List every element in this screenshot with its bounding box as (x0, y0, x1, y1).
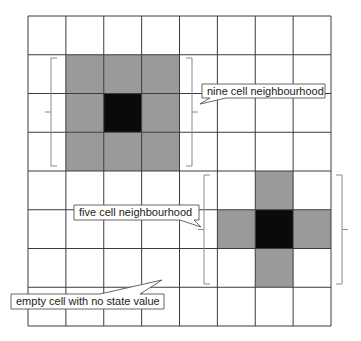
cell-empty (217, 249, 255, 288)
cell-neighbour (142, 55, 180, 94)
cell-empty (255, 16, 293, 55)
cell-empty (180, 287, 218, 326)
cell-empty (66, 16, 104, 55)
cell-neighbour (142, 132, 180, 171)
cell-empty (28, 55, 66, 94)
cell-neighbour (293, 210, 331, 249)
cell-center (104, 94, 142, 133)
cell-empty (293, 16, 331, 55)
cell-empty (180, 132, 218, 171)
cell-empty (217, 16, 255, 55)
cell-neighbour (255, 171, 293, 210)
cell-empty (28, 210, 66, 249)
callout-five-cell-text: five cell neighbourhood (79, 206, 192, 218)
cell-empty (28, 249, 66, 288)
cell-empty (217, 287, 255, 326)
cell-empty (293, 171, 331, 210)
callout-nine-cell-text: nine cell neighbourhood (207, 85, 324, 97)
cell-empty (142, 171, 180, 210)
cell-empty (217, 171, 255, 210)
cell-empty (28, 132, 66, 171)
cell-neighbour (104, 132, 142, 171)
cell-neighbour (104, 55, 142, 94)
cell-empty (217, 94, 255, 133)
cell-empty (28, 171, 66, 210)
cell-empty (104, 16, 142, 55)
cell-empty (28, 94, 66, 133)
cell-neighbour (142, 94, 180, 133)
cell-empty (104, 249, 142, 288)
cell-empty (28, 16, 66, 55)
cell-empty (217, 132, 255, 171)
cell-empty (293, 94, 331, 133)
cell-empty (180, 171, 218, 210)
cell-neighbour (66, 132, 104, 171)
cell-neighbour (217, 210, 255, 249)
cell-empty (293, 132, 331, 171)
cell-empty (142, 16, 180, 55)
cell-empty (255, 287, 293, 326)
cell-empty (180, 16, 218, 55)
cell-empty (66, 171, 104, 210)
cell-empty (293, 287, 331, 326)
cell-neighbour (66, 55, 104, 94)
cell-empty (255, 132, 293, 171)
callout-empty-cell-text: empty cell with no state value (16, 295, 160, 307)
cell-empty (66, 249, 104, 288)
bracket-five-cell-right (336, 175, 348, 284)
cell-neighbour (66, 94, 104, 133)
cell-center (255, 210, 293, 249)
cell-empty (293, 249, 331, 288)
cell-empty (180, 249, 218, 288)
cell-empty (104, 171, 142, 210)
cell-neighbour (255, 249, 293, 288)
cell-empty (255, 94, 293, 133)
cellular-automata-neighbourhood-diagram: nine cell neighbourhood five cell neighb… (0, 0, 361, 341)
